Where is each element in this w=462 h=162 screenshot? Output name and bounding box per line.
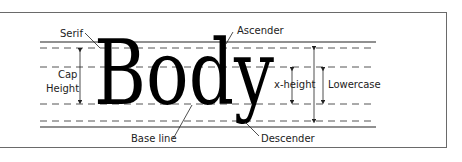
serif-label: Serif: [60, 28, 83, 39]
height-label: Height: [46, 83, 79, 94]
x-height-label: x-height: [274, 79, 315, 90]
descender-label: Descender: [261, 133, 316, 144]
cap-label: Cap: [58, 69, 77, 80]
typography-diagram: Body Cap Height Serif Ascender x-height …: [0, 0, 462, 162]
lowercase-label: Lowercase: [328, 79, 381, 90]
base-line-label: Base line: [131, 133, 177, 144]
ascender-label: Ascender: [237, 25, 285, 36]
